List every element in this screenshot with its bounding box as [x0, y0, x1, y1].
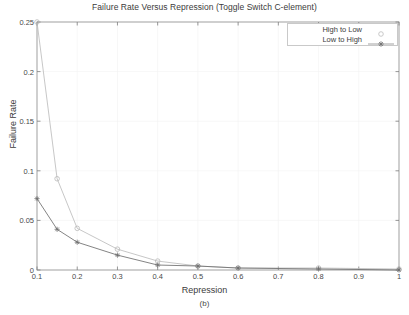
axis-ticks [37, 22, 399, 270]
legend-marker-circle-icon [366, 25, 396, 35]
data-series-layer [34, 20, 401, 273]
legend-item-high-to-low: High to Low [288, 25, 399, 35]
chart-figure: Failure Rate Versus Repression (Toggle S… [0, 0, 409, 315]
series-high-to-low [35, 20, 402, 272]
legend-label-low-to-high: Low to High [290, 35, 362, 45]
plot-canvas [0, 0, 409, 315]
chart-legend: High to Low Low to High [287, 23, 398, 46]
gridlines [37, 22, 399, 270]
legend-item-low-to-high: Low to High [288, 35, 399, 45]
legend-marker-star-line-icon [366, 35, 396, 45]
axis-frame [37, 22, 399, 270]
legend-label-high-to-low: High to Low [290, 25, 362, 35]
